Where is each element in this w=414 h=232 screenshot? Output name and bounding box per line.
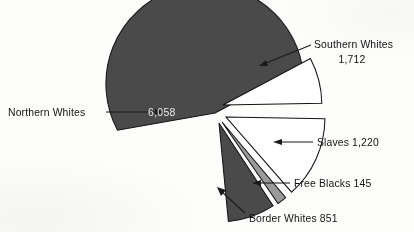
label-free-blacks: Free Blacks 145 [294, 178, 371, 189]
label-southern-whites: Southern Whites [314, 39, 393, 50]
slice-northern-whites[interactable] [106, 0, 302, 130]
value-northern-whites-inside: 6,058 [148, 107, 176, 118]
pie-chart-figure: Northern Whites 6,058 Southern Whites 1,… [0, 0, 414, 232]
pie-chart-canvas: Northern Whites 6,058 Southern Whites 1,… [0, 0, 414, 232]
value-southern-whites: 1,712 [339, 54, 366, 65]
label-slaves: Slaves 1,220 [317, 137, 379, 148]
label-northern-whites: Northern Whites [8, 107, 85, 118]
label-border-whites: Border Whites 851 [249, 213, 338, 224]
slice-group-northern-whites[interactable] [106, 0, 302, 130]
